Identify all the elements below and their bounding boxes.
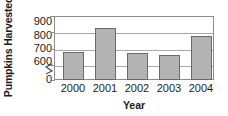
bar-chart: Pumpkins Harvested 900 800 700 600 0 200… (0, 0, 228, 116)
bar-2003[interactable] (159, 55, 180, 80)
x-axis-title: Year (54, 99, 214, 111)
y-tick-label: 700 (18, 43, 52, 54)
y-axis-title: Pumpkins Harvested (0, 0, 16, 94)
zigzag-axis-break-icon (45, 63, 59, 77)
bar-2004[interactable] (191, 36, 212, 80)
bar-2001[interactable] (95, 28, 116, 80)
y-tick-label: 800 (18, 30, 52, 41)
x-axis-tick-labels: 2000 2001 2002 2003 2004 (54, 83, 214, 97)
bar-2000[interactable] (63, 52, 84, 80)
bars-layer (54, 16, 214, 80)
y-tick-label: 900 (18, 16, 52, 27)
y-axis-title-label: Pumpkins Harvested (2, 0, 14, 97)
y-axis-tick-labels: 900 800 700 600 0 (16, 0, 52, 116)
x-tick-label: 2004 (181, 83, 221, 94)
y-tick-mark (50, 80, 55, 81)
bar-2002[interactable] (127, 53, 148, 80)
